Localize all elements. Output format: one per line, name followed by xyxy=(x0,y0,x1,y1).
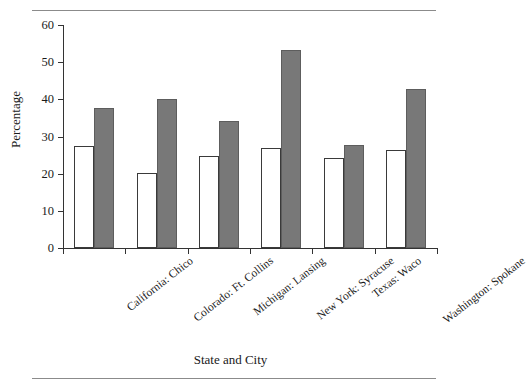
bar-filled-bar-4 xyxy=(344,145,364,248)
x-axis-title: State and City xyxy=(0,352,461,368)
y-tick xyxy=(58,99,63,100)
y-axis-line xyxy=(63,25,64,248)
bar-open-bar-2 xyxy=(199,156,219,248)
y-tick xyxy=(58,62,63,63)
x-tick xyxy=(188,248,189,254)
y-tick-label: 10 xyxy=(42,205,55,218)
bar-open-bar-5 xyxy=(386,150,406,248)
y-tick xyxy=(58,25,63,26)
y-tick-label: 0 xyxy=(48,242,54,255)
bar-filled-bar-5 xyxy=(406,89,426,248)
bar-open-bar-3 xyxy=(261,148,281,248)
y-tick-label: 60 xyxy=(42,19,55,32)
x-tick xyxy=(125,248,126,254)
y-tick xyxy=(58,211,63,212)
bar-filled-bar-3 xyxy=(281,50,301,248)
y-tick-label: 40 xyxy=(42,93,55,106)
bar-open-bar-1 xyxy=(137,173,157,248)
y-tick-label: 20 xyxy=(42,167,55,180)
x-tick xyxy=(375,248,376,254)
y-tick xyxy=(58,137,63,138)
x-category-label: Washington: Spokane xyxy=(441,255,527,326)
bar-open-bar-0 xyxy=(74,146,94,248)
x-tick xyxy=(312,248,313,254)
bar-filled-bar-1 xyxy=(157,99,177,248)
bar-filled-bar-2 xyxy=(219,121,239,248)
x-tick xyxy=(437,248,438,254)
bar-filled-bar-0 xyxy=(94,108,114,248)
y-axis-title: Percentage xyxy=(8,91,24,148)
plot-area: 0102030405060 xyxy=(63,25,437,248)
bar-open-bar-4 xyxy=(324,158,344,248)
y-tick-label: 30 xyxy=(42,130,55,143)
y-tick-label: 50 xyxy=(42,56,55,69)
y-tick xyxy=(58,174,63,175)
top-horizontal-rule xyxy=(32,10,436,11)
x-tick xyxy=(250,248,251,254)
bottom-horizontal-rule xyxy=(32,378,436,379)
x-category-label: California: Chico xyxy=(125,255,195,313)
x-tick xyxy=(63,248,64,254)
